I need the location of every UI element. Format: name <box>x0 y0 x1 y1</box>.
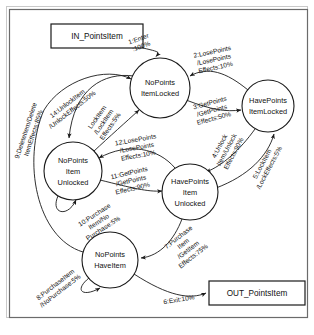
edge-label-t7: 7:Purchase Item /GetItem Effects:75% <box>162 223 209 269</box>
edge-t6 <box>134 274 206 296</box>
edge-label-t8: 8:PurchaseItem /NoPurchase:5% <box>33 266 81 308</box>
edge-t1 <box>143 48 158 57</box>
edge-label-t6: 6:Exit:10% <box>163 293 195 305</box>
edge-label-t11: 11:GetPoints /GetPoints Effects:90% <box>110 165 153 196</box>
state-label-line: Item <box>66 167 80 176</box>
state-node-havepoints-item-unlocked[interactable]: HavePoints Item Unlocked <box>162 164 218 220</box>
state-label-line: NoPoints <box>58 156 88 165</box>
state-label-line: NoPoints <box>145 78 175 87</box>
state-label-line: ItemLocked <box>249 107 287 116</box>
state-label-line: NoPoints <box>95 250 125 259</box>
state-node-havepoints-itemlocked[interactable]: HavePoints ItemLocked <box>242 80 294 132</box>
state-label-line: Unlocked <box>175 199 206 208</box>
state-label-line: HavePoints <box>171 177 209 186</box>
edge-label-t4: 4:Unlock Item/Unlock Effects:90% <box>208 128 245 170</box>
edge-label-t12: 12:LosePoints /LosePoints Effects:10% <box>114 132 160 162</box>
state-node-nopoints-item-unlocked[interactable]: NoPoints Item Unlocked <box>44 142 102 200</box>
edge-label-t5: 5:LockItem /LockEffects:5% <box>248 141 283 190</box>
state-diagram-container: IN_PointsItem OUT_PointsItem NoPoints It… <box>0 0 314 335</box>
edge-label-t2: 2:LosePoints /LosePoints Effects:10% <box>193 44 236 75</box>
edge-label-line: 6:Exit:10% <box>163 293 195 305</box>
terminal-out-label: OUT_PointsItem <box>227 289 288 298</box>
state-node-nopoints-itemlocked[interactable]: NoPoints ItemLocked <box>130 58 190 118</box>
state-label-line: ItemLocked <box>141 89 179 98</box>
state-label-line: HavePoints <box>249 96 287 105</box>
state-label-line: HaveItem <box>94 261 126 270</box>
edge-label-t9: 9:DeleteItem/Delete ItemEffects:85% <box>13 101 45 161</box>
terminal-node-out[interactable]: OUT_PointsItem <box>209 281 305 305</box>
terminal-in-label: IN_PointsItem <box>71 32 123 41</box>
state-machine-diagram: IN_PointsItem OUT_PointsItem NoPoints It… <box>0 0 314 335</box>
state-label-line: Unlocked <box>58 178 89 187</box>
edge-label-t13: LockItem /LockItem Effects:5% <box>85 102 122 141</box>
state-label-line: Item <box>183 188 197 197</box>
edge-label-t3: 3:GetPoints /GetPoints Effects:50% <box>192 95 232 126</box>
